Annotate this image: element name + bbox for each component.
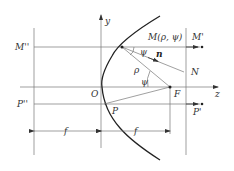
- label-y: y: [104, 16, 111, 26]
- label-m-prime: M': [191, 32, 204, 42]
- point-m: [121, 46, 124, 49]
- point-f: [169, 86, 172, 89]
- fp-line: [104, 87, 170, 104]
- label-n-point: N: [190, 67, 200, 77]
- label-n-vector: n: [156, 49, 163, 59]
- label-psi-top: ψ: [140, 47, 148, 57]
- label-o: O: [91, 89, 99, 99]
- label-m: M(ρ, ψ): [147, 32, 183, 42]
- label-rho: ρ: [133, 65, 140, 75]
- parabola-diagram: y z M'' M(ρ, ψ) M' N n ψ ρ ψ O F P P'' P…: [0, 0, 234, 171]
- p-prime-dot: [201, 103, 204, 106]
- label-f: F: [173, 89, 181, 99]
- label-p: P: [111, 106, 119, 116]
- label-p-prime: P': [192, 107, 202, 117]
- label-z: z: [214, 89, 220, 99]
- label-m-double: M'': [14, 42, 29, 52]
- label-psi-focus: ψ: [141, 77, 149, 87]
- m-prime-dot: [201, 46, 204, 49]
- label-p-double: P'': [16, 99, 28, 109]
